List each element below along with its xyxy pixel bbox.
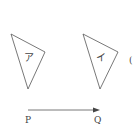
- triangle-a-label: ア: [24, 53, 34, 63]
- partial-label: (: [129, 56, 133, 65]
- point-p-label: P: [25, 116, 31, 125]
- triangle-i-label: イ: [96, 53, 106, 63]
- translation-diagram: [0, 0, 135, 125]
- point-q-label: Q: [94, 116, 101, 125]
- arrowhead-icon: [93, 108, 100, 113]
